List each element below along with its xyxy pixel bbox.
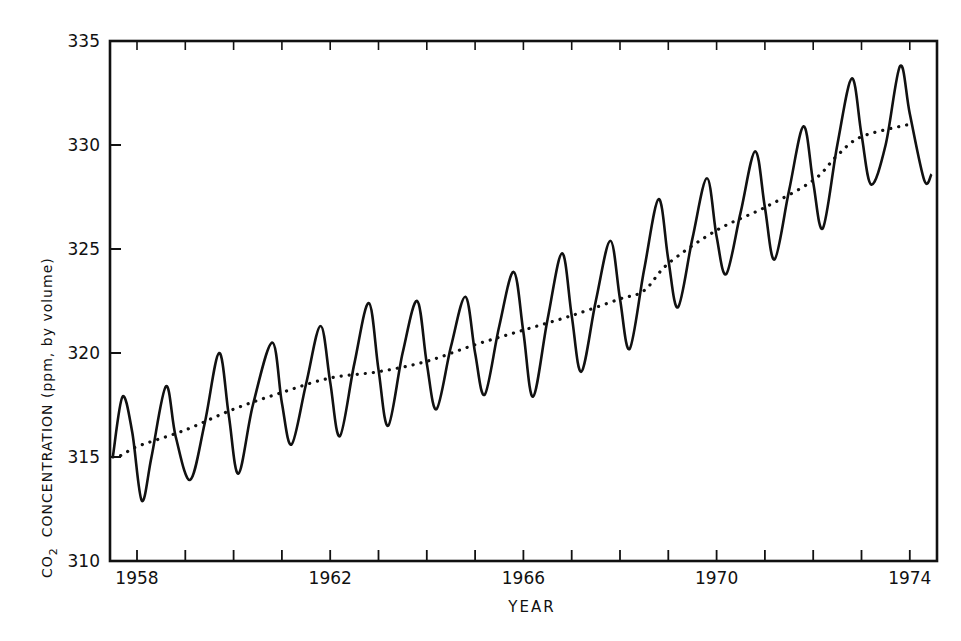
y-tick-label: 330 xyxy=(68,135,100,155)
x-axis-title: YEAR xyxy=(507,598,555,616)
plot-frame xyxy=(110,41,937,561)
svg-text:CO2CONCENTRATION (ppm, by vol: CO2CONCENTRATION (ppm, by volume) xyxy=(39,257,60,578)
y-tick-label: 310 xyxy=(68,551,100,571)
x-axis: 19581962196619701974 xyxy=(115,41,931,588)
x-tick-label: 1974 xyxy=(888,568,931,588)
x-tick-label: 1970 xyxy=(695,568,738,588)
y-tick-label: 335 xyxy=(68,31,100,51)
trend-line xyxy=(113,124,910,457)
plot-area xyxy=(113,65,932,501)
y-axis-title-co: CO xyxy=(39,555,55,578)
y-axis-title: CO2CONCENTRATION (ppm, by volume) xyxy=(39,257,60,578)
x-tick-label: 1962 xyxy=(309,568,352,588)
y-tick-label: 325 xyxy=(68,239,100,259)
y-tick-label: 320 xyxy=(68,343,100,363)
x-tick-label: 1966 xyxy=(502,568,545,588)
y-axis-title-subscript: 2 xyxy=(47,547,60,555)
y-tick-label: 315 xyxy=(68,447,100,467)
monthly-co2-line xyxy=(113,65,932,501)
y-axis: 310315320325330335 xyxy=(68,31,121,571)
x-tick-label: 1958 xyxy=(115,568,158,588)
co2-chart: 310315320325330335 19581962196619701974 … xyxy=(0,0,961,641)
y-axis-title-rest: CONCENTRATION (ppm, by volume) xyxy=(39,257,55,537)
